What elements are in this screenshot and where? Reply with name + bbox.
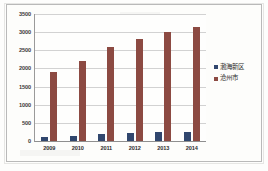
bar <box>79 61 86 141</box>
legend-label: 渤海新区 <box>220 64 244 70</box>
legend-label: 沧州市 <box>220 75 238 81</box>
bar-group: 2010 <box>64 14 93 141</box>
bar <box>70 136 77 141</box>
bar <box>136 39 143 141</box>
x-axis-tick-label: 2010 <box>72 145 84 151</box>
bar <box>184 132 191 141</box>
x-axis-tick-label: 2013 <box>157 145 169 151</box>
bar <box>107 47 114 141</box>
legend-item: 沧州市 <box>214 75 262 81</box>
bar <box>50 72 57 141</box>
bar <box>193 27 200 141</box>
x-axis-tick-label: 2009 <box>43 145 55 151</box>
y-axis-tick-label: 3500 <box>19 11 31 17</box>
bar-group: 2011 <box>92 14 121 141</box>
y-axis-tick-label: 2000 <box>19 65 31 71</box>
x-axis-tick-label: 2014 <box>186 145 198 151</box>
y-axis-tick-label: 500 <box>22 120 31 126</box>
y-axis-tick-label: 1500 <box>19 84 31 90</box>
y-axis-tick-label: 0 <box>28 138 31 144</box>
x-axis-tick-label: 2012 <box>129 145 141 151</box>
y-axis-tick-label: 1000 <box>19 102 31 108</box>
legend-swatch-icon <box>214 65 218 69</box>
y-axis-tick-label: 2500 <box>19 47 31 53</box>
bar <box>155 132 162 141</box>
bar-group: 2012 <box>121 14 150 141</box>
chart-image: 0500100015002000250030003500200920102011… <box>0 0 268 171</box>
y-axis-tick-label: 3000 <box>19 29 31 35</box>
x-axis-tick-label: 2011 <box>100 145 112 151</box>
plot-area: 0500100015002000250030003500200920102011… <box>34 14 206 142</box>
legend-item: 渤海新区 <box>214 64 262 70</box>
bar-group: 2014 <box>178 14 207 141</box>
bar <box>127 133 134 141</box>
bar <box>98 134 105 141</box>
bar <box>164 32 171 141</box>
chart-legend: 渤海新区 沧州市 <box>214 64 262 82</box>
bar-group: 2009 <box>35 14 64 141</box>
bar <box>41 137 48 141</box>
bar-group: 2013 <box>149 14 178 141</box>
legend-swatch-icon <box>214 77 218 81</box>
